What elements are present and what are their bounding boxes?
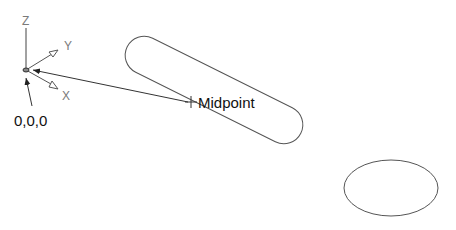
y-axis-line: [26, 54, 52, 70]
origin-marker-icon: [23, 68, 29, 72]
y-axis-label: Y: [64, 39, 72, 53]
slot-shape: [119, 30, 310, 151]
x-axis-line: [26, 70, 51, 84]
z-axis-label: Z: [22, 14, 29, 28]
ellipse-shape: [344, 160, 438, 216]
diagram-canvas: Z Y X 0,0,0 Midpoint: [0, 0, 456, 230]
x-axis-arrowhead-icon: [49, 81, 58, 89]
axis-triad: Z Y X: [22, 14, 72, 103]
origin-leader-arrow: [26, 78, 32, 106]
x-axis-label: X: [62, 89, 70, 103]
midpoint-label: Midpoint: [198, 94, 256, 111]
origin-label: 0,0,0: [14, 112, 47, 129]
y-axis-arrowhead-icon: [49, 50, 58, 57]
